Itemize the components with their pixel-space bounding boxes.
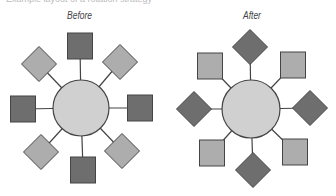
hub-circle <box>53 80 109 136</box>
dark-diamond-node <box>177 92 212 127</box>
light-diamond-node <box>24 135 59 170</box>
light-square-node <box>283 139 308 165</box>
diagram-canvas <box>0 0 336 196</box>
light-diamond-node <box>103 45 138 80</box>
after-hub-diagram <box>177 30 328 188</box>
dark-diamond-node <box>236 153 271 188</box>
dark-square-node <box>68 33 93 59</box>
hub-circle <box>222 80 280 138</box>
dark-square-node <box>71 157 96 183</box>
before-hub-diagram <box>11 33 153 183</box>
dark-diamond-node <box>293 91 328 126</box>
light-square-node <box>198 53 223 79</box>
light-square-node <box>200 140 225 166</box>
dark-diamond-node <box>233 30 268 65</box>
light-square-node <box>281 52 306 78</box>
dark-square-node <box>128 95 153 121</box>
dark-square-node <box>11 96 36 122</box>
